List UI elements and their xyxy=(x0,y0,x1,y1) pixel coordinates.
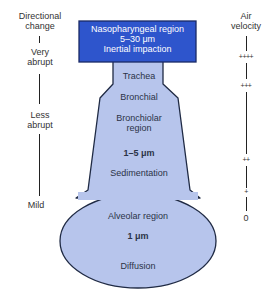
level-less-abrupt-line1: Less xyxy=(0,110,80,120)
right-axis-line-2 xyxy=(246,63,247,79)
left-axis-line-2 xyxy=(39,74,40,104)
right-axis-line-3 xyxy=(246,92,247,154)
level-less-abrupt: Less abrupt xyxy=(0,110,80,130)
bronchiolar-name-line1: Bronchiolar xyxy=(95,113,183,123)
level-less-abrupt-line2: abrupt xyxy=(0,120,80,130)
air-velocity-title-line1: Air xyxy=(220,11,272,21)
right-axis-line-1 xyxy=(246,36,247,51)
velocity-mark-1plus: + xyxy=(220,188,272,195)
alveolar-region-shape xyxy=(60,194,216,288)
level-mild-line1: Mild xyxy=(0,200,72,210)
left-axis-line-1 xyxy=(39,36,40,43)
trachea-label: Trachea xyxy=(100,71,178,81)
nasopharyngeal-mechanism: Inertial impaction xyxy=(79,44,196,54)
alveolar-mechanism: Diffusion xyxy=(70,261,206,271)
right-axis-line-5 xyxy=(246,197,247,211)
bronchial-label: Bronchial xyxy=(100,92,178,102)
level-very-abrupt-line2: abrupt xyxy=(0,57,80,67)
velocity-mark-3plus: +++ xyxy=(220,82,272,89)
level-mild: Mild xyxy=(0,200,72,210)
bronchiolar-label: Bronchiolar region xyxy=(95,113,183,133)
alveolar-name: Alveolar region xyxy=(70,211,206,221)
velocity-mark-4plus: ++++ xyxy=(220,53,272,60)
alveolar-size: 1 μm xyxy=(70,231,206,241)
nasopharyngeal-label: Nasopharyngeal region 5–30 μm Inertial i… xyxy=(79,24,196,54)
level-very-abrupt: Very abrupt xyxy=(0,47,80,67)
directional-change-title: Directional change xyxy=(0,11,80,31)
nasopharyngeal-size: 5–30 μm xyxy=(79,34,196,44)
bronchiolar-mechanism: Sedimentation xyxy=(95,168,183,178)
right-axis-line-4 xyxy=(246,166,247,188)
velocity-mark-zero: 0 xyxy=(220,213,272,223)
air-velocity-title: Air velocity xyxy=(220,11,272,31)
bronchiolar-size: 1–5 μm xyxy=(95,148,183,158)
nasopharyngeal-name: Nasopharyngeal region xyxy=(79,24,196,34)
air-velocity-title-line2: velocity xyxy=(220,21,272,31)
level-very-abrupt-line1: Very xyxy=(0,47,80,57)
directional-change-title-line1: Directional xyxy=(0,11,80,21)
left-axis-line-3 xyxy=(39,134,40,196)
directional-change-title-line2: change xyxy=(0,21,80,31)
bronchiolar-name-line2: region xyxy=(95,123,183,133)
velocity-mark-2plus: ++ xyxy=(220,156,272,163)
